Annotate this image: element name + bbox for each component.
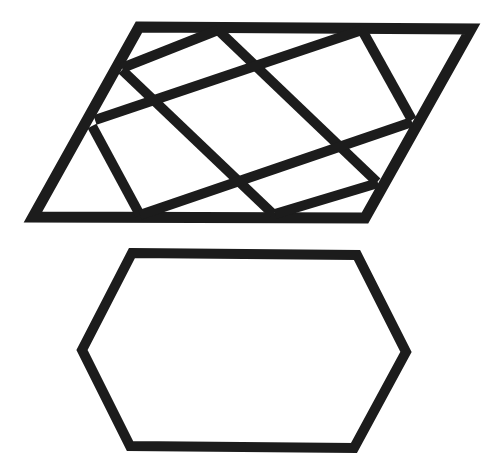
dissected-parallelogram <box>33 27 471 218</box>
hexagon-shape <box>82 253 406 448</box>
figure-svg <box>0 0 492 475</box>
parallelogram-cut-lines <box>92 30 412 215</box>
hexagon-outline <box>82 253 406 448</box>
cut-line-cut-g <box>275 183 378 214</box>
cut-line-cut-d <box>362 30 412 120</box>
figure-canvas <box>0 0 492 475</box>
cut-line-cut-e <box>92 126 140 215</box>
